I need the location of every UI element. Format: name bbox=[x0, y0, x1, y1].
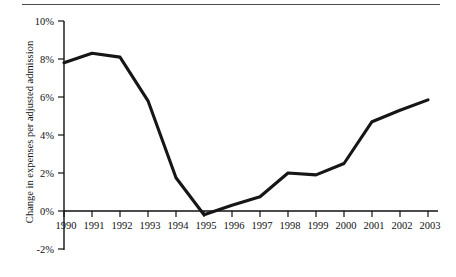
x-axis-ticks bbox=[64, 211, 428, 217]
y-tick-label: 2% bbox=[40, 168, 54, 179]
line-chart-plot: Change in expenses per adjusted admissio… bbox=[0, 0, 456, 277]
y-axis-label: Change in expenses per adjusted admissio… bbox=[24, 40, 35, 223]
y-tick-label: 6% bbox=[40, 92, 54, 103]
data-series-line bbox=[64, 53, 428, 215]
chart-figure: Change in expenses per adjusted admissio… bbox=[0, 0, 456, 277]
x-axis-tick-labels: 1990 1991 1992 1993 1994 1995 1996 1997 … bbox=[56, 220, 441, 231]
y-tick-label: 10% bbox=[35, 16, 55, 27]
x-tick-label: 1994 bbox=[168, 220, 190, 231]
y-tick-label: -2% bbox=[37, 244, 55, 255]
x-tick-label: 1998 bbox=[280, 220, 301, 231]
x-tick-label: 1997 bbox=[252, 220, 273, 231]
x-tick-label: 2001 bbox=[364, 220, 385, 231]
x-tick-label: 1992 bbox=[112, 220, 133, 231]
x-tick-label: 1999 bbox=[308, 220, 329, 231]
x-tick-label: 1991 bbox=[84, 220, 105, 231]
x-tick-label: 1990 bbox=[56, 220, 77, 231]
x-tick-label: 1995 bbox=[196, 220, 217, 231]
y-tick-label: 0% bbox=[40, 206, 54, 217]
y-tick-label: 4% bbox=[40, 130, 54, 141]
x-tick-label: 2000 bbox=[336, 220, 357, 231]
y-tick-label: 8% bbox=[40, 54, 54, 65]
x-tick-label: 2002 bbox=[392, 220, 413, 231]
x-tick-label: 1993 bbox=[140, 220, 161, 231]
y-axis-ticks bbox=[58, 21, 64, 249]
x-tick-label: 1996 bbox=[224, 220, 245, 231]
y-axis-tick-labels: 10% 8% 6% 4% 2% 0% -2% bbox=[35, 16, 55, 255]
x-tick-label: 2003 bbox=[420, 220, 441, 231]
